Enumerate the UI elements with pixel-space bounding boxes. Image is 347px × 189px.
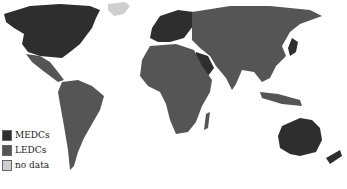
region-europe [150, 10, 196, 42]
region-japan [288, 38, 298, 56]
region-madagascar [204, 112, 210, 130]
legend-swatch-medcs [2, 130, 12, 141]
legend-label: no data [15, 160, 49, 170]
region-new-zealand [326, 150, 342, 164]
region-greenland [108, 2, 130, 16]
region-central-america [26, 54, 64, 82]
legend: MEDCs LEDCs no data [2, 128, 50, 173]
legend-swatch-no-data [2, 160, 12, 171]
legend-swatch-ledcs [2, 145, 12, 156]
legend-label: LEDCs [15, 145, 46, 155]
region-australia [278, 118, 322, 156]
region-indonesia [260, 92, 302, 106]
world-map [0, 0, 347, 189]
region-asia [192, 6, 322, 90]
region-south-america [58, 80, 104, 170]
legend-item-medcs: MEDCs [2, 128, 50, 142]
legend-item-no-data: no data [2, 158, 50, 172]
legend-item-ledcs: LEDCs [2, 143, 50, 157]
legend-label: MEDCs [15, 130, 50, 140]
region-north-america [4, 4, 100, 58]
